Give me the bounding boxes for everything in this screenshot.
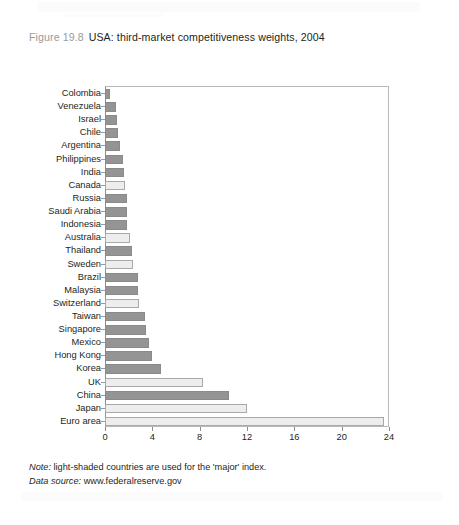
x-axis-tick-label: 24: [384, 432, 394, 442]
x-axis-tick: [200, 427, 201, 431]
bar: [105, 260, 133, 270]
bar: [105, 286, 138, 296]
bar: [105, 273, 138, 283]
x-axis-tick-label: 4: [150, 432, 155, 442]
note-text: light-shaded countries are used for the …: [51, 462, 266, 472]
figure-container: Figure 19.8USA: third-market competitive…: [0, 0, 459, 525]
x-axis-tick: [294, 427, 295, 431]
x-axis-tick-label: 16: [289, 432, 299, 442]
bar: [105, 325, 146, 335]
bar: [105, 378, 203, 388]
x-axis-tick: [152, 427, 153, 431]
bar: [105, 168, 124, 178]
bar-chart: ColombiaVenezuelaIsraelChileArgentinaPhi…: [0, 0, 459, 525]
source-line: Data source: www.federalreserve.gov: [29, 474, 429, 488]
x-axis-tick-label: 0: [102, 432, 107, 442]
bar: [105, 194, 127, 204]
bar: [105, 246, 132, 256]
bar: [105, 364, 161, 374]
category-label-row: Euro area: [0, 414, 101, 430]
bar: [105, 89, 110, 99]
note-line: Note: light-shaded countries are used fo…: [29, 460, 429, 474]
bar: [105, 299, 139, 309]
bar: [105, 128, 118, 138]
bar: [105, 155, 123, 165]
figure-notes: Note: light-shaded countries are used fo…: [29, 460, 429, 488]
bar: [105, 102, 116, 112]
bar: [105, 351, 152, 361]
x-axis-tick-label: 8: [197, 432, 202, 442]
bar: [105, 404, 247, 414]
bar-rows: ColombiaVenezuelaIsraelChileArgentinaPhi…: [105, 86, 389, 427]
x-axis-tick-label: 20: [336, 432, 346, 442]
x-axis-tick: [105, 427, 106, 431]
bar: [105, 115, 117, 125]
bar: [105, 338, 149, 348]
source-label: Data source:: [29, 476, 81, 486]
x-axis: 04812162024: [105, 427, 389, 449]
bar: [105, 417, 384, 427]
x-axis-tick: [389, 427, 390, 431]
x-axis-tick: [247, 427, 248, 431]
bar: [105, 391, 229, 401]
x-axis-tick: [342, 427, 343, 431]
category-label: Euro area: [0, 414, 101, 430]
note-label: Note:: [29, 462, 51, 472]
bar: [105, 141, 120, 151]
bar: [105, 220, 127, 230]
bar: [105, 233, 130, 243]
bar: [105, 181, 125, 191]
category-axis-labels: ColombiaVenezuelaIsraelChileArgentinaPhi…: [0, 86, 103, 427]
bar: [105, 207, 127, 217]
bar: [105, 312, 145, 322]
source-text: www.federalreserve.gov: [81, 476, 182, 486]
x-axis-tick-label: 12: [242, 432, 252, 442]
